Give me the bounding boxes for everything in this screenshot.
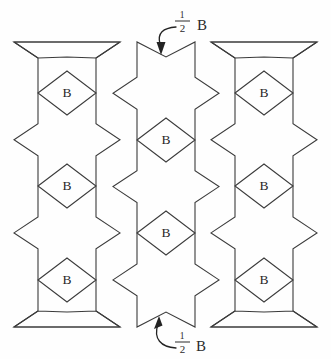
bottom-callout-arrow-curve — [157, 324, 176, 348]
bottom-callout-unit: B — [196, 338, 206, 354]
top-callout-denominator: 2 — [180, 22, 186, 34]
bottom-half-b-callout: 1 2 B — [154, 316, 206, 355]
right-column-bottom-bar — [211, 311, 317, 327]
cell-label-b: B — [62, 85, 71, 100]
cell-label-b: B — [62, 178, 71, 193]
center-column-cell-1: B — [137, 211, 195, 255]
left-column-cell-0: B — [38, 71, 96, 115]
columns-group — [14, 42, 317, 327]
rhombus-cells-group: BBBBBBBB — [38, 71, 293, 302]
center-column-outline — [113, 42, 219, 327]
top-callout-arrow-curve — [159, 27, 176, 44]
tessellation-canvas: BBBBBBBB 1 2 B 1 2 B — [0, 0, 331, 359]
cell-label-b: B — [62, 272, 71, 287]
right-column-cell-0: B — [235, 71, 293, 115]
cell-label-b: B — [161, 225, 170, 240]
left-column-cell-2: B — [38, 258, 96, 302]
bottom-callout-numerator: 1 — [180, 331, 185, 341]
cell-label-b: B — [259, 178, 268, 193]
right-column-cell-1: B — [235, 164, 293, 208]
cell-label-b: B — [259, 85, 268, 100]
top-callout-unit: B — [197, 17, 207, 33]
tessellation-figure: BBBBBBBB 1 2 B 1 2 B — [0, 0, 331, 359]
right-column-top-bar — [211, 42, 317, 58]
left-column-top-bar — [14, 42, 120, 58]
right-column-cell-2: B — [235, 258, 293, 302]
top-callout-numerator: 1 — [180, 10, 185, 20]
bottom-callout-denominator: 2 — [180, 343, 186, 355]
left-column-cell-1: B — [38, 164, 96, 208]
cell-label-b: B — [259, 272, 268, 287]
cell-label-b: B — [161, 132, 170, 147]
center-column-cell-0: B — [137, 118, 195, 162]
left-column-bottom-bar — [14, 311, 120, 327]
